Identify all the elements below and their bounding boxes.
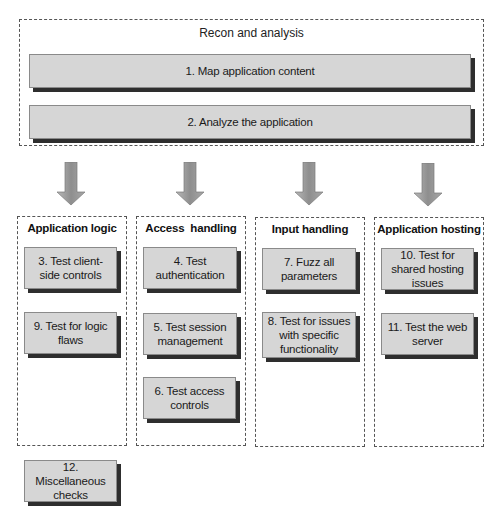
step-9-label: 9. Test for logic flaws: [29, 319, 112, 347]
step-5-box: 5. Test session management: [143, 313, 237, 355]
step-11-label: 11. Test the web server: [386, 320, 469, 348]
down-arrow-icon: [294, 162, 324, 206]
step-6-label: 6. Test access controls: [148, 384, 231, 412]
step-9-box: 9. Test for logic flaws: [24, 312, 117, 354]
down-arrow-icon: [413, 163, 443, 207]
column-title: Access handling: [137, 222, 245, 234]
step-10-label: 10. Test for shared hosting issues: [386, 248, 469, 290]
step-3-box: 3. Test client-side controls: [24, 247, 117, 289]
step-4-label: 4. Test authentication: [148, 254, 232, 282]
step-3-label: 3. Test client-side controls: [29, 254, 112, 282]
step-4-box: 4. Test authentication: [143, 247, 237, 289]
caption-cutoff: [16, 510, 486, 514]
step-12-label: 12. Miscellaneous checks: [29, 460, 112, 502]
step-12-box: 12. Miscellaneous checks: [24, 460, 117, 502]
step-2-label: 2. Analyze the application: [187, 115, 312, 129]
step-2-box: 2. Analyze the application: [29, 105, 471, 139]
step-8-box: 8. Test for issues with specific functio…: [262, 312, 356, 358]
step-6-box: 6. Test access controls: [143, 377, 236, 419]
step-5-label: 5. Test session management: [148, 320, 232, 348]
column-title: Input handling: [256, 223, 364, 235]
step-11-box: 11. Test the web server: [381, 313, 474, 355]
step-10-box: 10. Test for shared hosting issues: [381, 248, 474, 290]
step-7-label: 7. Fuzz all parameters: [267, 255, 351, 283]
recon-group-title: Recon and analysis: [20, 26, 483, 40]
step-1-box: 1. Map application content: [29, 54, 471, 88]
down-arrow-icon: [175, 162, 205, 206]
step-1-label: 1. Map application content: [185, 64, 314, 78]
step-8-label: 8. Test for issues with specific functio…: [267, 314, 351, 356]
column-title: Application hosting: [375, 223, 483, 235]
step-7-box: 7. Fuzz all parameters: [262, 248, 356, 290]
column-title: Application logic: [18, 222, 126, 234]
down-arrow-icon: [56, 162, 86, 206]
